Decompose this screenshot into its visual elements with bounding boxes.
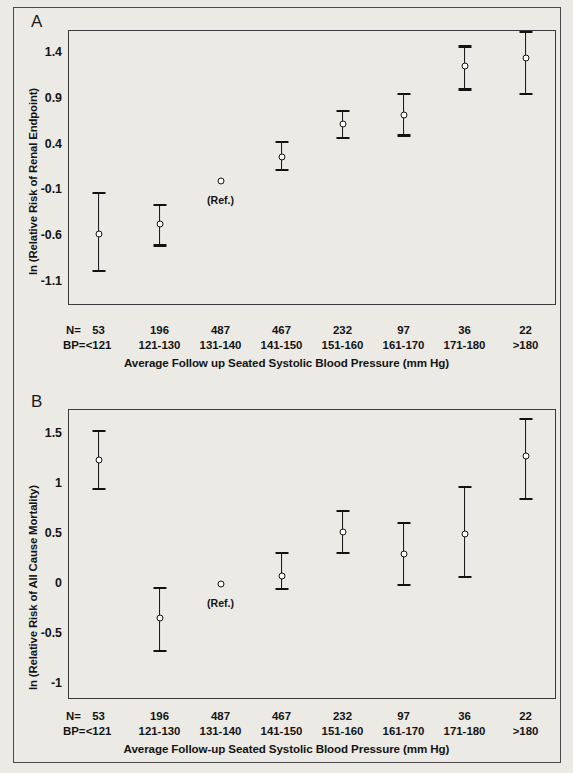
point-marker	[156, 221, 163, 228]
panel-a-y-tick-label: -0.1	[12, 182, 62, 196]
panel-a-bp-row-label: BP=	[63, 339, 85, 351]
point-marker	[217, 178, 224, 185]
n-count-value: 53	[92, 324, 105, 336]
error-bar-cap-upper	[397, 522, 410, 524]
bp-category-value: 121-130	[139, 339, 181, 351]
n-count-value: 97	[397, 324, 410, 336]
n-count-value: 22	[519, 710, 532, 722]
bp-category-value: 131-140	[200, 339, 242, 351]
panel-b-y-tick-label: -0.5	[12, 626, 62, 640]
n-count-value: 232	[333, 324, 352, 336]
error-bar-cap-lower	[458, 88, 471, 90]
bp-category-value: 141-150	[261, 339, 303, 351]
bp-category-value: 161-170	[383, 339, 425, 351]
panel-b: B ln (Relative Risk of All Cause Mortali…	[0, 380, 573, 773]
panel-a-plot-area	[68, 30, 556, 305]
point-marker	[95, 457, 102, 464]
panel-a-y-tick-label: 1.4	[12, 45, 62, 59]
n-count-value: 467	[272, 324, 291, 336]
error-bar-cap-lower	[153, 244, 166, 246]
error-bar-cap-upper	[519, 31, 532, 33]
error-bar-line	[281, 553, 283, 589]
n-count-value: 97	[397, 710, 410, 722]
panel-b-letter: B	[31, 392, 42, 412]
panel-a-y-tick-label: 0.4	[12, 137, 62, 151]
point-marker	[400, 112, 407, 119]
point-marker	[278, 573, 285, 580]
error-bar-cap-lower	[336, 552, 349, 554]
panel-a-letter: A	[31, 12, 42, 32]
n-count-value: 467	[272, 710, 291, 722]
error-bar-cap-lower	[397, 584, 410, 586]
error-bar-cap-upper	[153, 587, 166, 589]
error-bar-cap-upper	[519, 418, 532, 420]
panel-a-y-tick-label: -0.6	[12, 228, 62, 242]
error-bar-cap-lower	[275, 588, 288, 590]
panel-b-y-tick-label: 0	[12, 576, 62, 590]
bp-category-value: 171-180	[444, 725, 486, 737]
point-marker	[217, 581, 224, 588]
panel-a-y-tick-label: -1.1	[12, 274, 62, 288]
point-marker	[461, 531, 468, 538]
error-bar-cap-lower	[458, 576, 471, 578]
error-bar-cap-upper	[336, 510, 349, 512]
panel-b-y-tick-label: 1.5	[12, 426, 62, 440]
error-bar-cap-lower	[336, 137, 349, 139]
error-bar-cap-upper	[397, 93, 410, 95]
reference-category-label: (Ref.)	[207, 194, 234, 206]
bp-category-value: 171-180	[444, 339, 486, 351]
panel-a-n-row-label: N=	[66, 324, 81, 336]
error-bar-cap-lower	[153, 650, 166, 652]
error-bar-cap-upper	[458, 486, 471, 488]
point-marker	[156, 615, 163, 622]
bp-category-value: <121	[86, 725, 112, 737]
n-count-value: 487	[211, 324, 230, 336]
error-bar-cap-lower	[519, 93, 532, 95]
error-bar-cap-upper	[336, 110, 349, 112]
bp-category-value: 131-140	[200, 725, 242, 737]
error-bar-cap-upper	[275, 141, 288, 143]
error-bar-cap-upper	[92, 192, 105, 194]
n-count-value: 196	[150, 710, 169, 722]
point-marker	[339, 121, 346, 128]
error-bar-line	[525, 32, 527, 94]
bp-category-value: 151-160	[322, 339, 364, 351]
point-marker	[278, 153, 285, 160]
point-marker	[339, 529, 346, 536]
n-count-value: 53	[92, 710, 105, 722]
panel-b-plot-area	[68, 409, 556, 699]
panel-b-n-row-label: N=	[66, 710, 81, 722]
point-marker	[461, 62, 468, 69]
reference-category-label: (Ref.)	[207, 597, 234, 609]
bp-category-value: >180	[513, 339, 539, 351]
bp-category-value: >180	[513, 725, 539, 737]
error-bar-cap-upper	[153, 204, 166, 206]
error-bar-cap-lower	[92, 270, 105, 272]
n-count-value: 487	[211, 710, 230, 722]
error-bar-cap-lower	[397, 134, 410, 136]
bp-category-value: 151-160	[322, 725, 364, 737]
point-marker	[400, 551, 407, 558]
n-count-value: 36	[458, 710, 471, 722]
error-bar-cap-upper	[458, 45, 471, 47]
n-count-value: 36	[458, 324, 471, 336]
panel-a-x-axis-title: Average Follow up Seated Systolic Blood …	[0, 356, 573, 369]
figure-root: A ln (Relative Risk of Renal Endpoint) 1…	[0, 0, 573, 773]
bp-category-value: 121-130	[139, 725, 181, 737]
error-bar-cap-upper	[275, 552, 288, 554]
bp-category-value: 141-150	[261, 725, 303, 737]
panel-b-x-axis-title: Average Follow-up Seated Systolic Blood …	[0, 742, 573, 755]
bp-category-value: <121	[86, 339, 112, 351]
panel-b-y-tick-label: 0.5	[12, 526, 62, 540]
error-bar-cap-lower	[92, 488, 105, 490]
n-count-value: 196	[150, 324, 169, 336]
error-bar-cap-lower	[275, 169, 288, 171]
panel-b-y-tick-label: 1	[12, 476, 62, 490]
panel-b-bp-row-label: BP=	[63, 725, 85, 737]
panel-a-y-tick-label: 0.9	[12, 91, 62, 105]
point-marker	[522, 54, 529, 61]
point-marker	[522, 453, 529, 460]
error-bar-cap-upper	[92, 430, 105, 432]
panel-b-y-tick-label: -1	[12, 676, 62, 690]
point-marker	[95, 231, 102, 238]
